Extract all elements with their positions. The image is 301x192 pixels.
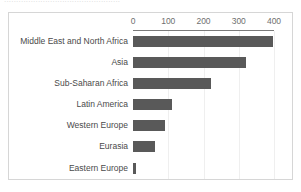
x-tick-label: 200 — [196, 15, 210, 28]
x-tick-label: 300 — [232, 15, 246, 28]
bar[interactable] — [133, 141, 155, 152]
category-label: Middle East and North Africa — [20, 31, 133, 52]
bar[interactable] — [133, 57, 246, 68]
x-tick-label: 0 — [131, 15, 136, 28]
x-axis-tick-labels: 0100200300400 — [9, 15, 294, 31]
bar-row: Latin America — [9, 94, 294, 115]
clipped-title-remnant: ........................................… — [4, 0, 204, 4]
chart-screenshot: ........................................… — [0, 0, 301, 192]
category-label: Latin America — [77, 94, 134, 115]
bar-row: Sub-Saharan Africa — [9, 73, 294, 94]
category-label: Western Europe — [67, 115, 133, 136]
bar[interactable] — [133, 120, 165, 131]
category-label: Eastern Europe — [69, 158, 133, 179]
bar-row: Western Europe — [9, 115, 294, 136]
plot-area: Middle East and North AfricaAsiaSub-Saha… — [9, 31, 294, 179]
bar-row: Asia — [9, 52, 294, 73]
bar-row: Eastern Europe — [9, 158, 294, 179]
x-tick-label: 400 — [267, 15, 281, 28]
category-label: Eurasia — [99, 136, 133, 157]
bar[interactable] — [133, 163, 136, 174]
category-label: Sub-Saharan Africa — [54, 73, 133, 94]
bar-row: Eurasia — [9, 136, 294, 157]
bar[interactable] — [133, 36, 273, 47]
bar[interactable] — [133, 78, 211, 89]
x-tick-label: 100 — [161, 15, 175, 28]
chart-frame: 0100200300400 Middle East and North Afri… — [8, 12, 293, 180]
category-label: Asia — [111, 52, 133, 73]
bar-row: Middle East and North Africa — [9, 31, 294, 52]
bar[interactable] — [133, 99, 172, 110]
